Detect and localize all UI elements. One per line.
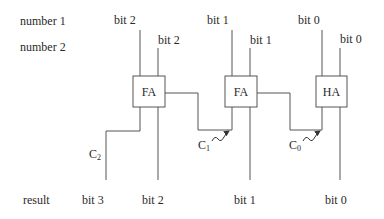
adder-diagram: number 1 number 2 result bit 2 bit 1 bit… — [0, 0, 384, 219]
carry-c0-label: C0 — [289, 139, 301, 153]
wires — [0, 0, 384, 219]
n2-bit0-label: bit 0 — [340, 33, 362, 45]
fa-bit1-label: FA — [225, 86, 257, 98]
out-bit1-label: bit 1 — [234, 194, 256, 206]
c0-pointer-arrow — [303, 131, 320, 141]
n1-bit1-label: bit 1 — [207, 14, 229, 26]
out-bit2-label: bit 2 — [142, 194, 164, 206]
out-bit0-label: bit 0 — [325, 194, 347, 206]
fa-bit2-label: FA — [133, 86, 165, 98]
c2-wire — [106, 107, 140, 180]
ha-bit0-label: HA — [316, 86, 347, 98]
label-result: result — [23, 194, 50, 206]
label-number-2: number 2 — [20, 41, 66, 53]
n1-bit0-label: bit 0 — [298, 14, 320, 26]
carry-c1-label: C1 — [198, 139, 210, 153]
carry-c2-label: C2 — [89, 148, 101, 162]
label-number-1: number 1 — [20, 15, 66, 27]
n1-bit2-label: bit 2 — [114, 14, 136, 26]
out-bit3-label: bit 3 — [82, 194, 104, 206]
c1-wire — [165, 93, 232, 130]
n2-bit1-label: bit 1 — [250, 34, 272, 46]
c0-wire — [257, 93, 322, 130]
c1-pointer-arrow — [212, 131, 229, 141]
n2-bit2-label: bit 2 — [158, 34, 180, 46]
